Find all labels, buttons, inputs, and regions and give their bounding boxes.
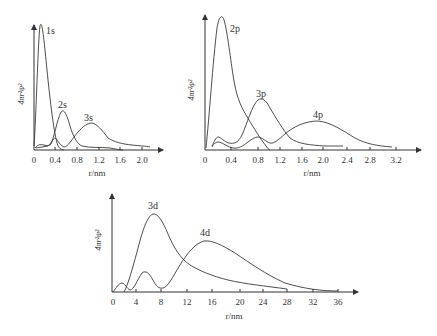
label-2p: 2p	[230, 23, 240, 34]
svg-text:0.4: 0.4	[225, 155, 237, 165]
svg-text:0: 0	[32, 155, 37, 165]
label-3d: 3d	[148, 200, 158, 211]
svg-text:1.6: 1.6	[296, 155, 308, 165]
svg-text:0.8: 0.8	[71, 155, 83, 165]
svg-text:1.2: 1.2	[93, 155, 104, 165]
curve-2p	[206, 17, 270, 150]
svg-text:28: 28	[283, 297, 293, 307]
label-3p: 3p	[256, 88, 266, 99]
label-2s: 2s	[58, 99, 67, 110]
svg-text:4: 4	[134, 297, 139, 307]
x-axis-label: r/nm	[304, 168, 321, 178]
svg-text:24: 24	[259, 297, 269, 307]
radial-distribution-figure: 0 0.4 0.8 1.2 1.6 2.0 r/nm 4πr²ψ² 1s 2s …	[0, 0, 437, 336]
y-axis-label: 4πr²ψ²	[187, 79, 196, 100]
svg-text:16: 16	[208, 297, 218, 307]
svg-text:1.6: 1.6	[114, 155, 126, 165]
curve-3s	[36, 123, 150, 148]
svg-text:12: 12	[183, 297, 192, 307]
x-axis-label: r/nm	[226, 311, 243, 321]
svg-text:2.0: 2.0	[317, 155, 329, 165]
chart-d-orbitals: 0 4 8 12 16 20 24 28 32 36 r/nm 4πr²ψ² 3…	[94, 194, 358, 321]
svg-text:20: 20	[236, 297, 246, 307]
svg-text:32: 32	[309, 297, 318, 307]
svg-text:36: 36	[334, 297, 344, 307]
label-3s: 3s	[84, 112, 93, 123]
curve-4d	[113, 241, 338, 292]
svg-text:0.4: 0.4	[49, 155, 61, 165]
chart-s-orbitals: 0 0.4 0.8 1.2 1.6 2.0 r/nm 4πr²ψ² 1s 2s …	[17, 24, 163, 178]
label-4d: 4d	[200, 227, 210, 238]
svg-text:0: 0	[203, 155, 208, 165]
svg-text:2.8: 2.8	[364, 155, 376, 165]
label-1s: 1s	[46, 25, 55, 36]
x-tick-labels: 0 0.4 0.8 1.2 1.6 2.0	[32, 155, 148, 165]
curve-3d	[124, 214, 287, 292]
svg-text:0.8: 0.8	[252, 155, 264, 165]
x-tick-labels: 0 4 8 12 16 20 24 28 32 36	[111, 297, 343, 307]
svg-text:1.2: 1.2	[274, 155, 285, 165]
svg-text:3.2: 3.2	[390, 155, 401, 165]
y-axis-label: 4πr²ψ²	[94, 229, 103, 250]
curve-1s	[34, 24, 64, 150]
svg-text:2.4: 2.4	[341, 155, 353, 165]
svg-text:8: 8	[159, 297, 164, 307]
chart-p-orbitals: 0 0.4 0.8 1.2 1.6 2.0 2.4 2.8 3.2 r/nm 4…	[187, 15, 421, 178]
x-axis-label: r/nm	[89, 168, 106, 178]
curve-3p	[212, 99, 343, 146]
curve-4p	[212, 121, 392, 148]
label-4p: 4p	[313, 109, 323, 120]
x-tick-labels: 0 0.4 0.8 1.2 1.6 2.0 2.4 2.8 3.2	[203, 155, 402, 165]
y-axis-label: 4πr²ψ²	[17, 83, 26, 104]
svg-text:0: 0	[111, 297, 116, 307]
svg-text:2.0: 2.0	[136, 155, 148, 165]
